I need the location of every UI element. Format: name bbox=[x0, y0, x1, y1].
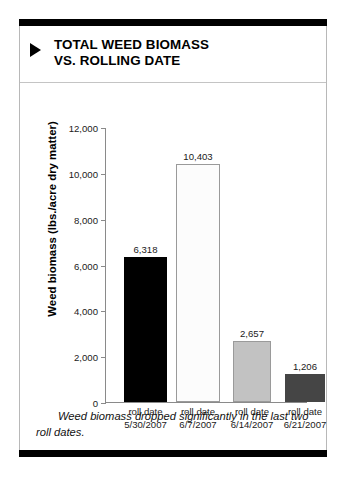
chart-plot-region: Weed biomass (lbs./acre dry matter) 12,0… bbox=[20, 83, 326, 393]
y-axis-tick-label: 8,000 bbox=[74, 214, 98, 225]
top-rule-bar bbox=[19, 19, 327, 26]
bar-value-label: 1,206 bbox=[293, 361, 317, 372]
y-axis-tick-label: 6,000 bbox=[74, 260, 98, 271]
plot-area: 12,00010,0008,0006,0004,0002,0000 6,318r… bbox=[105, 128, 307, 403]
triangle-right-icon bbox=[30, 43, 41, 57]
bar-value-label: 2,657 bbox=[240, 328, 264, 339]
bar-3: 2,657roll date 6/14/2007 bbox=[233, 341, 271, 402]
y-axis-title: Weed biomass (lbs./acre dry matter) bbox=[46, 94, 58, 344]
y-axis-tick-mark bbox=[101, 220, 105, 221]
y-axis-line bbox=[105, 128, 106, 404]
y-axis-tick-label: 0 bbox=[93, 398, 98, 409]
y-axis-tick-mark bbox=[101, 128, 105, 129]
x-axis-line bbox=[105, 402, 307, 403]
page-title: TOTAL WEED BIOMASS VS. ROLLING DATE bbox=[54, 37, 209, 69]
bar-4: 1,206roll date 6/21/2007 bbox=[285, 374, 325, 402]
bar-1: 6,318roll date 5/30/2007 bbox=[124, 257, 167, 402]
y-axis-tick-label: 12,000 bbox=[69, 123, 98, 134]
y-axis-tick-mark bbox=[101, 311, 105, 312]
y-axis-tick-mark bbox=[101, 266, 105, 267]
y-axis-tick-mark bbox=[101, 174, 105, 175]
y-axis-tick-mark bbox=[101, 403, 105, 404]
figure-title-block: TOTAL WEED BIOMASS VS. ROLLING DATE bbox=[20, 26, 326, 83]
figure-frame: TOTAL WEED BIOMASS VS. ROLLING DATE Weed… bbox=[19, 19, 327, 457]
bar-2: 10,403roll date 6/7/2007 bbox=[176, 164, 220, 402]
y-axis-tick-label: 4,000 bbox=[74, 306, 98, 317]
bottom-rule-bar bbox=[19, 450, 327, 457]
y-axis-tick-mark bbox=[101, 357, 105, 358]
figure-caption: Weed biomass dropped significantly in th… bbox=[36, 409, 312, 440]
bar-value-label: 10,403 bbox=[183, 151, 212, 162]
bar-value-label: 6,318 bbox=[133, 244, 157, 255]
y-axis-tick-label: 10,000 bbox=[69, 168, 98, 179]
y-axis-tick-label: 2,000 bbox=[74, 352, 98, 363]
